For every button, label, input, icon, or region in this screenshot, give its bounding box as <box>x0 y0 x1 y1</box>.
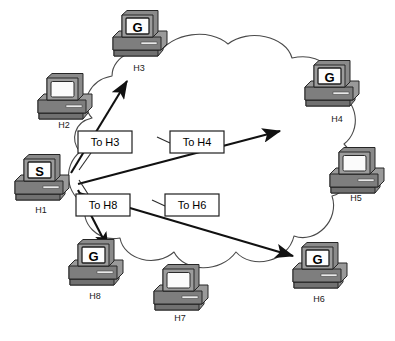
host-label-h6: H6 <box>313 294 325 304</box>
packet-label-text: To H8 <box>89 199 118 211</box>
host-h6[interactable]: G <box>293 243 347 289</box>
network-diagram: G H3 H2 G H4 S H1 H5 G H8 <box>0 0 395 341</box>
screen-letter-h6: G <box>312 252 322 267</box>
host-label-h5: H5 <box>350 193 362 203</box>
screen-letter-h3: G <box>132 20 142 35</box>
screen-letter-h8: G <box>88 249 98 264</box>
host-label-h1: H1 <box>35 205 47 215</box>
host-label-h4: H4 <box>331 114 343 124</box>
host-h3[interactable]: G <box>113 11 167 57</box>
computer-icon <box>38 74 92 120</box>
diagram-canvas: G H3 H2 G H4 S H1 H5 G H8 <box>0 0 395 341</box>
host-label-h3: H3 <box>133 63 145 73</box>
screen-letter-h1: S <box>35 164 44 179</box>
packet-label-text: To H4 <box>183 136 212 148</box>
host-h7[interactable] <box>154 265 208 311</box>
host-h2[interactable] <box>38 74 92 120</box>
host-h8[interactable]: G <box>69 240 123 286</box>
screen-letter-h4: G <box>324 70 334 85</box>
host-label-h8: H8 <box>89 291 101 301</box>
host-label-h7: H7 <box>174 313 186 323</box>
host-h1[interactable]: S <box>15 155 69 201</box>
packet-label-text: To H6 <box>178 199 207 211</box>
packet-label-text: To H3 <box>91 136 120 148</box>
host-label-h2: H2 <box>58 120 70 130</box>
computer-icon <box>154 265 208 311</box>
